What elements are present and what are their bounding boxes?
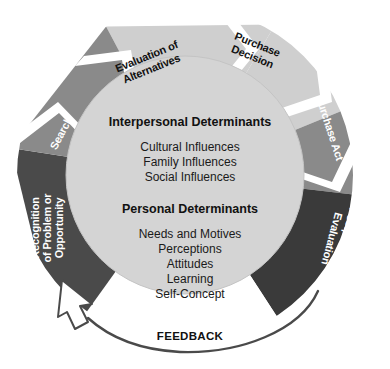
- interpersonal-determinants-heading: Interpersonal Determinants: [109, 115, 272, 129]
- feedback-label: FEEDBACK: [157, 330, 224, 342]
- personal-item-0: Needs and Motives: [139, 227, 242, 241]
- personal-item-4: Self-Concept: [155, 287, 225, 301]
- personal-determinants-heading: Personal Determinants: [122, 202, 258, 216]
- consumer-decision-process-diagram: Evaluation of Alternatives Purchase Deci…: [0, 0, 390, 369]
- label-recognition-line-3: Opportunity: [53, 197, 65, 259]
- label-recognition: Recognition of Problem or Opportunity: [29, 193, 65, 263]
- label-recognition-line-1: Recognition: [29, 197, 41, 259]
- diagram-canvas: Evaluation of Alternatives Purchase Deci…: [0, 0, 390, 369]
- personal-item-1: Perceptions: [158, 242, 221, 256]
- interpersonal-item-0: Cultural Influences: [140, 140, 239, 154]
- interpersonal-item-1: Family Influences: [143, 155, 236, 169]
- personal-item-2: Attitudes: [167, 257, 214, 271]
- interpersonal-item-2: Social Influences: [145, 170, 236, 184]
- personal-item-3: Learning: [167, 272, 214, 286]
- label-recognition-line-2: of Problem or: [41, 193, 53, 263]
